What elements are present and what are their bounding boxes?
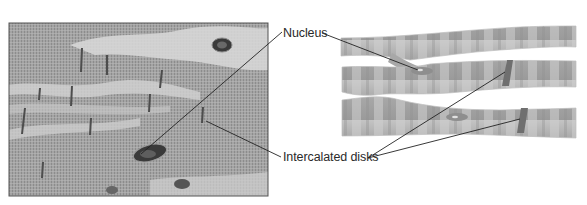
fiber-middle — [342, 60, 576, 95]
disk-mark — [90, 118, 91, 135]
micrograph-panel — [9, 23, 268, 196]
disk-mark — [202, 107, 203, 123]
disk-mark — [149, 94, 150, 112]
nucleus-highlight — [452, 116, 458, 119]
disk-mark — [42, 162, 43, 178]
intercalated-disks-label: Intercalated disks — [283, 150, 378, 164]
nucleus-label: Nucleus — [283, 26, 327, 40]
disk-mark — [71, 86, 72, 106]
fiber-top — [341, 26, 576, 60]
nucleus-detail — [140, 150, 156, 158]
nucleus-detail — [217, 42, 227, 49]
disk-mark — [39, 88, 40, 100]
illustration-panel — [341, 26, 576, 138]
micrograph-nucleus — [174, 179, 190, 189]
micrograph-nucleus — [106, 186, 118, 194]
disk-mark — [81, 48, 82, 72]
